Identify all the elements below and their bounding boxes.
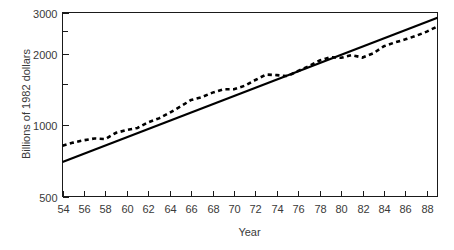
- x-tick-label: 84: [378, 203, 390, 215]
- series-actual-dashed-line: [63, 26, 438, 145]
- x-tick-label: 66: [185, 203, 197, 215]
- y-axis-tick-labels: 500100020003000: [33, 8, 57, 204]
- x-tick-label: 88: [421, 203, 433, 215]
- x-tick-label: 76: [292, 203, 304, 215]
- x-tick-label: 58: [99, 203, 111, 215]
- x-tick-label: 68: [207, 203, 219, 215]
- y-tick-label: 1000: [33, 120, 57, 132]
- x-tick-label: 60: [121, 203, 133, 215]
- x-tick-label: 62: [142, 203, 154, 215]
- x-axis-tick-labels: 545658606264666870727476788082848688: [57, 203, 433, 215]
- x-tick-label: 80: [335, 203, 347, 215]
- x-tick-label: 70: [228, 203, 240, 215]
- series-exponential-trend-line: [63, 18, 438, 162]
- x-tick-label: 54: [57, 203, 69, 215]
- y-tick-label: 2000: [33, 49, 57, 61]
- x-tick-label: 78: [314, 203, 326, 215]
- x-axis-title: Year: [238, 226, 261, 238]
- x-tick-label: 86: [399, 203, 411, 215]
- x-tick-label: 56: [78, 203, 90, 215]
- gdp-log-line-chart: 500100020003000 545658606264666870727476…: [0, 0, 454, 250]
- x-tick-label: 72: [249, 203, 261, 215]
- x-tick-label: 82: [357, 203, 369, 215]
- x-axis-ticks: [64, 191, 428, 197]
- y-tick-label: 500: [39, 192, 57, 204]
- chart-container: 500100020003000 545658606264666870727476…: [0, 0, 454, 250]
- y-axis-title: Billions of 1982 dollars: [20, 48, 32, 159]
- x-tick-label: 64: [164, 203, 176, 215]
- x-tick-label: 74: [271, 203, 283, 215]
- y-tick-label: 3000: [33, 8, 57, 20]
- y-axis-ticks: [63, 14, 69, 198]
